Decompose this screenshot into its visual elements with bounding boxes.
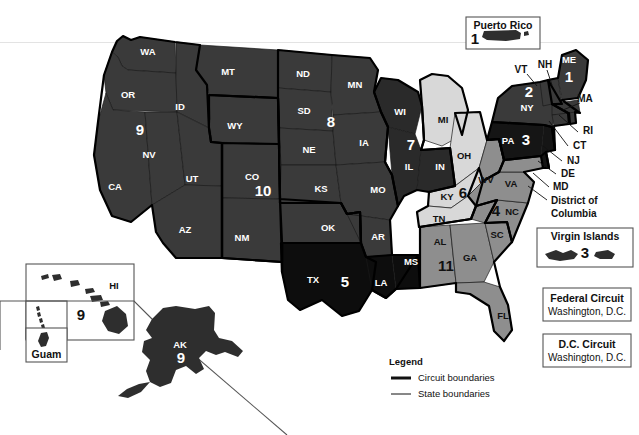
circuit-number-5: 5 xyxy=(341,273,349,290)
state-label-ok: OK xyxy=(321,222,335,233)
state-label-in: IN xyxy=(435,161,445,172)
state-label-ca: CA xyxy=(108,181,122,192)
circuit-number-6: 6 xyxy=(459,184,467,201)
leader-label-md: MD xyxy=(553,181,569,192)
state-label-ak: AK xyxy=(173,339,187,350)
circuit-number-4: 4 xyxy=(492,202,501,219)
state-label-wi: WI xyxy=(394,106,406,117)
leader-label-nj: NJ xyxy=(567,155,580,166)
legend-title: Legend xyxy=(389,356,423,367)
state-label-il: IL xyxy=(405,161,414,172)
state-label-la: LA xyxy=(375,277,388,288)
state-label-nd: ND xyxy=(296,68,310,79)
circuit-map: WAORIDMTWYNVCAUTAZNMCONDSDNEKSOKTXMNIAMO… xyxy=(0,0,639,435)
state-label-ny: NY xyxy=(520,102,534,113)
inset-title-guam: Guam xyxy=(32,348,62,360)
state-label-oh: OH xyxy=(457,150,471,161)
inset-circuit-puerto-rico: 1 xyxy=(471,30,479,47)
state-label-me: ME xyxy=(562,54,576,65)
leader-label-district-of: District of xyxy=(551,195,598,206)
leader-label-columbia: Columbia xyxy=(551,208,597,219)
inset-title-puerto-rico: Puerto Rico xyxy=(474,19,533,31)
circuit-number-11: 11 xyxy=(438,257,454,274)
state-label-or: OR xyxy=(121,89,135,100)
circuit-number-ak-9: 9 xyxy=(177,349,185,366)
court-box-subtitle-federal-circuit: Washington, D.C. xyxy=(548,306,626,317)
circuit-number-7: 7 xyxy=(407,136,415,153)
state-label-nv: NV xyxy=(142,149,156,160)
state-label-ar: AR xyxy=(371,231,385,242)
leader-label-nh: NH xyxy=(538,59,552,70)
circuit-number-9: 9 xyxy=(136,121,144,138)
state-label-ne: NE xyxy=(302,144,315,155)
court-box-title-dc-circuit: D.C. Circuit xyxy=(558,338,616,350)
state-label-tx: TX xyxy=(307,274,320,285)
state-label-nc: NC xyxy=(505,206,519,217)
state-label-fl: FL xyxy=(497,310,509,321)
legend-label-state: State boundaries xyxy=(418,388,490,399)
state-label-ms: MS xyxy=(404,256,418,267)
state-label-wy: WY xyxy=(227,120,243,131)
state-label-va: VA xyxy=(505,178,518,189)
leader-label-ri: RI xyxy=(583,125,593,136)
state-label-mi: MI xyxy=(438,114,449,125)
state-label-mn: MN xyxy=(348,79,363,90)
state-label-hi: HI xyxy=(109,280,119,291)
circuit-number-2: 2 xyxy=(525,83,533,100)
state-label-mt: MT xyxy=(221,66,235,77)
state-nm xyxy=(222,198,282,262)
circuit-number-10: 10 xyxy=(255,182,272,199)
state-label-co: CO xyxy=(245,171,259,182)
state-label-az: AZ xyxy=(179,224,192,235)
leader-label-ct: CT xyxy=(573,140,586,151)
court-box-title-federal-circuit: Federal Circuit xyxy=(550,292,624,304)
state-label-nm: NM xyxy=(235,232,250,243)
circuit-number-8: 8 xyxy=(327,113,335,130)
state-label-sd: SD xyxy=(297,105,310,116)
leader-label-vt: VT xyxy=(515,64,528,75)
state-label-ga: GA xyxy=(463,252,477,263)
legend-label-circuit: Circuit boundaries xyxy=(418,372,495,383)
state-label-ks: KS xyxy=(314,183,327,194)
state-label-pa: PA xyxy=(502,135,515,146)
inset-title-virgin-islands: Virgin Islands xyxy=(551,230,620,242)
state-label-mo: MO xyxy=(370,184,385,195)
state-label-id: ID xyxy=(175,101,185,112)
state-label-al: AL xyxy=(434,236,447,247)
state-label-ia: IA xyxy=(359,137,369,148)
circuit-number-1: 1 xyxy=(565,68,573,85)
inset-circuit-virgin-islands: 3 xyxy=(581,244,589,261)
leader-label-ma: MA xyxy=(577,93,593,104)
state-ks xyxy=(280,165,341,203)
state-label-ut: UT xyxy=(186,173,199,184)
state-label-ky: KY xyxy=(440,191,454,202)
leader-label-de: DE xyxy=(561,168,575,179)
inset-circuit-hawaii: 9 xyxy=(77,306,85,323)
court-box-subtitle-dc-circuit: Washington, D.C. xyxy=(548,352,626,363)
circuit-number-3: 3 xyxy=(522,131,530,148)
state-wy xyxy=(209,95,279,144)
state-label-wv: WV xyxy=(478,174,494,185)
state-label-wa: WA xyxy=(140,46,155,57)
state-label-tn: TN xyxy=(433,213,446,224)
state-label-sc: SC xyxy=(490,229,503,240)
